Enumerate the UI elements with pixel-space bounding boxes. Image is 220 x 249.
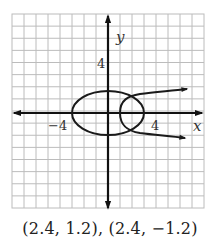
parabola-curve-upper (120, 89, 187, 113)
system-of-equations-graph: y x 4 −4 4 (0, 0, 220, 216)
axes (14, 16, 202, 208)
intersection-points-answer: (2.4, 1.2), (2.4, −1.2) (0, 219, 220, 238)
y-axis-label: y (115, 28, 125, 46)
x-axis-label: x (193, 117, 202, 135)
x-tick-label-4: 4 (151, 118, 159, 133)
x-tick-label-neg4: −4 (48, 118, 67, 133)
y-tick-label-4: 4 (97, 56, 105, 71)
